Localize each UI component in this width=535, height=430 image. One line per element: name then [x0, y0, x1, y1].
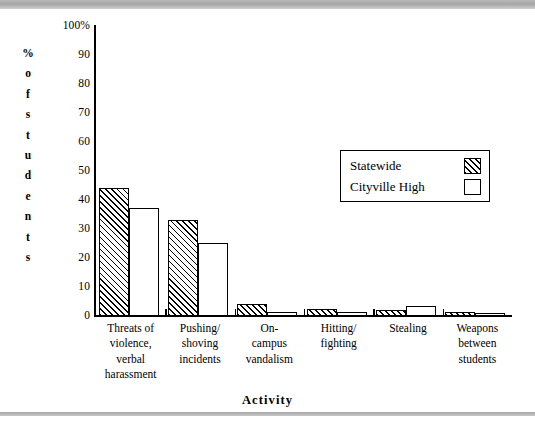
- y-axis-title-letter: s: [18, 247, 38, 267]
- x-axis-category-label-line: Weapons: [437, 321, 518, 336]
- bar-chart: %ofstudents 100%9080706050403020100 Thre…: [0, 9, 535, 412]
- legend-label-statewide: Statewide: [350, 159, 401, 172]
- bar-cityville-high[interactable]: [267, 312, 297, 316]
- x-axis-category-label-line: between: [437, 336, 518, 351]
- y-axis-tick-label: 50: [78, 165, 90, 177]
- bar-cityville-high[interactable]: [129, 208, 159, 316]
- x-axis-category-label-line: students: [437, 352, 518, 367]
- y-axis-tick-label: 70: [78, 107, 90, 119]
- x-axis-tick: [165, 309, 166, 317]
- y-axis-title-letter: t: [18, 227, 38, 247]
- x-axis-tick: [373, 309, 374, 317]
- bar-group: [235, 25, 304, 316]
- y-axis-title-letter: %: [18, 43, 38, 63]
- y-axis-tick-label: 60: [78, 136, 90, 148]
- y-axis-tick-label: 0: [84, 310, 90, 322]
- x-axis-category-labels: Threats ofviolence,verbalharassmentPushi…: [96, 321, 512, 391]
- bar-statewide[interactable]: [168, 220, 198, 316]
- bar-statewide[interactable]: [99, 188, 129, 316]
- bottom-divider-rule: [0, 412, 535, 416]
- y-axis-title-letter: t: [18, 125, 38, 145]
- x-axis-tick: [304, 309, 305, 317]
- legend-swatch-open-icon: [464, 179, 481, 195]
- bar-statewide[interactable]: [237, 304, 267, 316]
- y-axis-tick-label: 80: [78, 78, 90, 90]
- bar-statewide[interactable]: [307, 309, 337, 316]
- bar-cityville-high[interactable]: [198, 243, 228, 316]
- bar-group: [96, 25, 165, 316]
- x-axis-category-label-line: fighting: [298, 336, 379, 351]
- bar-group: [165, 25, 234, 316]
- x-axis-category-label-line: harassment: [90, 367, 171, 382]
- legend-swatch-hatched-icon: [464, 158, 481, 174]
- y-axis-title-letter: d: [18, 165, 38, 185]
- y-axis-tick-label: 90: [78, 49, 90, 61]
- x-axis-category-label: Weaponsbetweenstudents: [437, 321, 518, 367]
- y-axis-tick-labels: 100%9080706050403020100: [48, 9, 90, 329]
- bar-cityville-high[interactable]: [337, 312, 367, 316]
- bar-statewide[interactable]: [445, 312, 475, 316]
- y-axis-title-letter: s: [18, 104, 38, 124]
- x-axis-category-label-line: vandalism: [229, 352, 310, 367]
- y-axis-tick-label: 10: [78, 281, 90, 293]
- y-axis-title-letter: u: [18, 145, 38, 165]
- top-divider-rule: [0, 0, 535, 9]
- x-axis-tick: [235, 309, 236, 317]
- y-axis-title-letter: f: [18, 84, 38, 104]
- legend-item-cityville-high: Cityville High: [350, 176, 481, 197]
- y-axis-tick-label: 20: [78, 252, 90, 264]
- legend-label-cityville-high: Cityville High: [350, 180, 425, 193]
- y-axis-tick-label: 100%: [63, 20, 90, 32]
- bar-cityville-high[interactable]: [475, 313, 505, 316]
- y-axis-tick-label: 40: [78, 194, 90, 206]
- x-axis-title: Activity: [0, 393, 535, 408]
- y-axis-title: %ofstudents: [18, 43, 38, 267]
- legend-item-statewide: Statewide: [350, 155, 481, 176]
- chart-page: %ofstudents 100%9080706050403020100 Thre…: [0, 0, 535, 430]
- y-axis-title-letter: o: [18, 63, 38, 83]
- bar-statewide[interactable]: [376, 310, 406, 316]
- y-axis-tick-label: 30: [78, 223, 90, 235]
- y-axis-title-letter: e: [18, 186, 38, 206]
- bar-cityville-high[interactable]: [406, 306, 436, 316]
- y-axis-title-letter: n: [18, 206, 38, 226]
- x-axis-tick: [443, 309, 444, 317]
- chart-legend: Statewide Cityville High: [340, 150, 490, 202]
